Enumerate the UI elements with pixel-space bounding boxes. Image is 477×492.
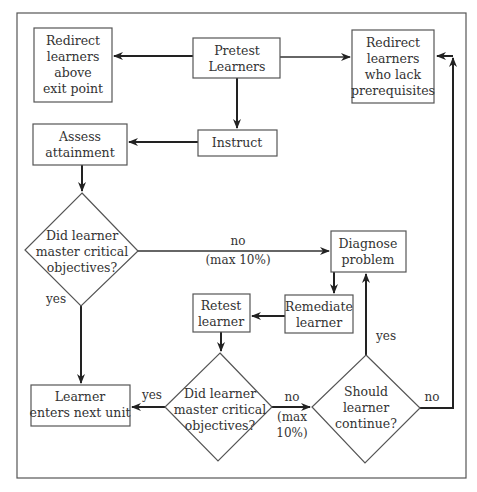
node-remediate: Remediate learner	[285, 295, 353, 333]
node-text: Redirect	[366, 35, 420, 50]
edge-decision3-redirect-prereq-vertical	[420, 58, 453, 408]
node-text: objectives?	[47, 260, 118, 275]
node-text: learners	[47, 49, 100, 64]
node-text: Learners	[209, 59, 266, 74]
node-redirect-above: Redirect learners above exit point	[34, 28, 112, 102]
node-retest: Retest learner	[193, 294, 250, 332]
node-text: Retest	[201, 298, 242, 313]
node-text: enters next unit	[30, 405, 131, 420]
label-d2-no: no	[285, 390, 300, 404]
node-text: problem	[342, 252, 395, 267]
node-text: Diagnose	[339, 236, 398, 251]
label-d2-yes: yes	[141, 388, 162, 402]
node-decision1: Did learner master critical objectives?	[25, 193, 138, 306]
node-decision3: Should learner continue?	[312, 355, 420, 463]
node-text: objectives?	[185, 418, 256, 433]
node-text: continue?	[335, 416, 397, 431]
node-text: Should	[344, 384, 388, 399]
node-text: learner	[198, 314, 244, 329]
node-text: prerequisites	[351, 83, 435, 98]
node-text: master critical	[174, 402, 267, 417]
node-text: Did learner	[184, 386, 256, 401]
node-assess: Assess attainment	[33, 124, 127, 165]
node-redirect-prereq: Redirect learners who lack prerequisites	[351, 30, 435, 103]
label-d3-no: no	[425, 390, 440, 404]
node-decision2: Did learner master critical objectives?	[165, 353, 272, 461]
node-text: Redirect	[46, 33, 100, 48]
node-text: Pretest	[214, 43, 260, 58]
node-text: Assess	[58, 129, 101, 144]
node-text: Did learner	[46, 228, 118, 243]
node-text: Learner	[55, 389, 106, 404]
node-text: who lack	[365, 67, 422, 82]
node-text: learner	[296, 315, 342, 330]
node-diagnose: Diagnose problem	[331, 231, 406, 272]
node-text: Instruct	[212, 135, 262, 150]
label-d1-no-max: (max 10%)	[205, 253, 270, 267]
node-text: Remediate	[285, 299, 353, 314]
node-text: learner	[343, 400, 389, 415]
label-d1-no: no	[231, 234, 246, 248]
label-d1-yes: yes	[45, 292, 66, 306]
node-text: learners	[367, 51, 420, 66]
node-pretest: Pretest Learners	[193, 38, 280, 78]
label-d2-no-pct: 10%)	[276, 426, 307, 440]
node-instruct: Instruct	[198, 130, 277, 156]
label-d2-no-max: (max	[277, 410, 307, 424]
node-text: master critical	[36, 244, 129, 259]
flowchart: Redirect learners above exit point Prete…	[0, 0, 477, 492]
node-text: exit point	[43, 81, 103, 96]
label-d3-yes: yes	[375, 329, 396, 343]
node-next-unit: Learner enters next unit	[30, 385, 131, 426]
node-text: above	[54, 65, 91, 80]
node-text: attainment	[45, 145, 114, 160]
